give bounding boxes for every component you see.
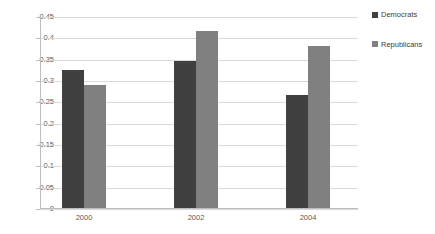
bar-group bbox=[62, 16, 106, 208]
x-axis-tick-label: 2000 bbox=[44, 214, 124, 222]
bar-democrats-2000[interactable] bbox=[62, 70, 84, 208]
y-axis-line bbox=[40, 17, 41, 209]
bar-republicans-2004[interactable] bbox=[308, 46, 330, 208]
legend-item-democrats[interactable]: Democrats bbox=[372, 11, 435, 19]
x-axis-line bbox=[40, 208, 358, 209]
legend: DemocratsRepublicans bbox=[372, 11, 435, 70]
bar-group bbox=[174, 16, 218, 208]
bar-republicans-2000[interactable] bbox=[84, 85, 106, 208]
bar-democrats-2004[interactable] bbox=[286, 95, 308, 208]
legend-swatch-icon bbox=[372, 12, 378, 18]
legend-swatch-icon bbox=[372, 41, 378, 47]
bar-group bbox=[286, 16, 330, 208]
bar-chart: 00.050.10.150.20.250.30.350.40.45 200020… bbox=[0, 0, 435, 234]
gridline bbox=[40, 209, 358, 210]
plot-area bbox=[40, 17, 358, 209]
y-axis-tick bbox=[36, 209, 40, 210]
legend-item-republicans[interactable]: Republicans bbox=[372, 41, 435, 49]
legend-label: Republicans bbox=[381, 41, 422, 49]
legend-label: Democrats bbox=[381, 11, 417, 19]
bar-democrats-2002[interactable] bbox=[174, 61, 196, 208]
x-axis-tick-label: 2004 bbox=[268, 214, 348, 222]
x-axis-tick-label: 2002 bbox=[156, 214, 236, 222]
bar-republicans-2002[interactable] bbox=[196, 31, 218, 208]
